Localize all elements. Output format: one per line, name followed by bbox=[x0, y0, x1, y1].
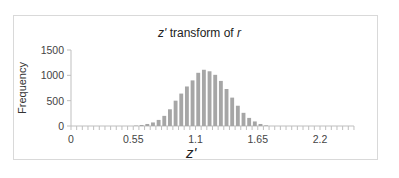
x-tick-label: 1.1 bbox=[188, 133, 203, 145]
histogram-bar bbox=[230, 98, 234, 126]
y-tick-label: 1000 bbox=[41, 69, 65, 81]
histogram-bar bbox=[202, 70, 206, 126]
x-tick-label: 2.2 bbox=[313, 133, 328, 145]
histogram-bar bbox=[196, 73, 200, 126]
histogram-bar bbox=[219, 81, 223, 126]
histogram-bar bbox=[151, 122, 155, 126]
histogram-bar bbox=[145, 124, 149, 126]
histogram-bar bbox=[236, 106, 240, 126]
y-tick-label: 500 bbox=[46, 95, 64, 107]
x-tick-label: 0 bbox=[68, 133, 74, 145]
x-tick-label: 0.55 bbox=[123, 133, 144, 145]
histogram-bar bbox=[213, 75, 217, 126]
histogram-bar bbox=[225, 89, 229, 126]
histogram-bar bbox=[247, 118, 251, 126]
histogram-bar bbox=[174, 101, 178, 126]
histogram-bar bbox=[208, 71, 212, 126]
histogram-bar bbox=[185, 86, 189, 126]
histogram-bar bbox=[162, 116, 166, 126]
plot-area: 05001000150000.551.11.652.2 bbox=[0, 0, 399, 178]
y-tick-label: 0 bbox=[58, 120, 64, 132]
histogram-bar bbox=[140, 125, 144, 126]
histogram-bar bbox=[264, 125, 268, 126]
histogram-bar bbox=[242, 113, 246, 126]
histogram-bar bbox=[259, 124, 263, 126]
y-tick-label: 1500 bbox=[41, 44, 65, 56]
x-tick-label: 1.65 bbox=[248, 133, 269, 145]
histogram-bar bbox=[157, 120, 161, 126]
histogram-bar bbox=[253, 121, 257, 126]
histogram-bar bbox=[168, 109, 172, 126]
histogram-bar bbox=[191, 80, 195, 126]
histogram-bar bbox=[179, 94, 183, 126]
